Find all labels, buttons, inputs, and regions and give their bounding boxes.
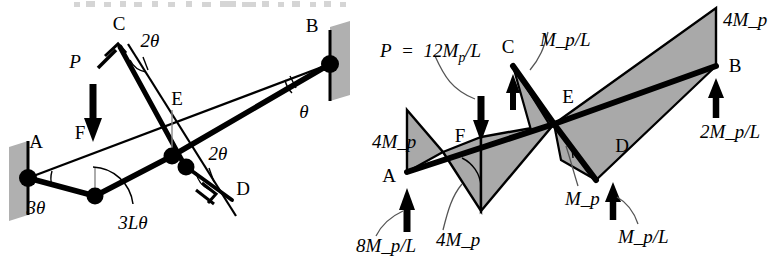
label-node-e-left: E [171,88,183,109]
label-node-b-left: B [306,15,319,36]
label-reaction-a: 8M_p/L [356,235,416,256]
label-moment-f: 4M_p [436,229,480,250]
label-node-d-left: D [236,178,250,199]
label-angle-c: 2θ [141,30,160,51]
label-angle-d: 2θ [209,143,228,164]
label-node-a-left: A [29,131,43,152]
engineering-figure: A B C D E F P 3θ 2θ 2θ θ 3Lθ [0,0,778,264]
hinge-node-a [19,169,37,187]
hinge-node-b [321,55,339,73]
label-node-e-right: E [562,86,574,107]
label-moment-a: 4M_p [372,131,416,152]
label-node-a-right: A [382,165,396,186]
label-load-p-left: P [68,51,81,72]
load-coefficient: 12 [424,40,444,61]
label-node-f-left: F [75,122,86,143]
label-node-b-right: B [729,55,742,76]
label-node-c-right: C [502,36,515,57]
figure-canvas: A B C D E F P 3θ 2θ 2θ θ 3Lθ [0,0,778,264]
hinge-node-f [87,188,104,205]
label-angle-b: θ [299,101,308,122]
label-node-d-right: D [615,135,629,156]
label-node-c-left: C [113,13,126,34]
label-moment-b: 4M_p [723,9,767,30]
load-m-symbol: M [442,40,460,61]
load-m-subscript: p [457,50,465,65]
label-angle-a: 3θ [26,197,46,218]
load-denominator: /L [464,40,481,61]
label-reaction-b: 2M_p/L [700,121,760,142]
label-displacement: 3Lθ [117,212,147,233]
hinge-node-e-upper [164,148,181,165]
hinge-node-e-lower [178,159,195,176]
load-p-symbol: P [379,40,392,61]
label-reaction-d: M_p/L [617,226,669,247]
label-moment-e: M_p [564,188,600,209]
label-reaction-c: M_p/L [539,29,591,50]
cropped-header-text [0,0,778,9]
label-node-f-right: F [455,125,466,146]
load-equals: = [401,40,414,61]
